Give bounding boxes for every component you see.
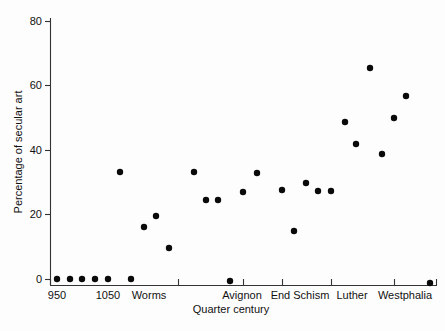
data-point [391, 115, 397, 121]
data-point [342, 119, 348, 125]
data-point [379, 151, 385, 157]
data-point [315, 188, 321, 194]
data-point [291, 228, 297, 234]
y-tick-marks [45, 22, 50, 280]
x-tick-label-worms: Worms [132, 289, 167, 301]
x-tick-label-avignon: Avignon [222, 289, 262, 301]
data-point [403, 93, 409, 99]
data-point [191, 169, 197, 175]
data-point [328, 188, 334, 194]
y-tick-label-60: 60 [30, 79, 42, 91]
data-point [117, 169, 123, 175]
data-point [367, 65, 373, 71]
data-point [141, 224, 147, 230]
data-point [279, 187, 285, 193]
x-tick-label-1050: 1050 [96, 289, 120, 301]
x-tick-label-westphalia: Westphalia [378, 289, 433, 301]
x-tick-label-end-schism: End Schism [271, 289, 330, 301]
data-point [166, 245, 172, 251]
data-point [105, 276, 111, 282]
x-tick-label-950: 950 [48, 289, 66, 301]
data-point [353, 141, 359, 147]
data-point [79, 276, 85, 282]
y-tick-label-40: 40 [30, 144, 42, 156]
data-point [54, 276, 60, 282]
y-axis-title: Percentage of secular art [12, 91, 24, 214]
scatter-plot-figure: 80 60 40 20 0 950 1050 Worms Avignon End… [0, 0, 445, 331]
data-point [153, 213, 159, 219]
data-point [427, 280, 433, 286]
data-point [303, 180, 309, 186]
data-points-layer [54, 65, 433, 286]
x-tick-label-luther: Luther [336, 289, 368, 301]
data-point [128, 276, 134, 282]
x-axis-title: Quarter century [193, 303, 270, 315]
data-point [227, 278, 233, 284]
data-point [240, 189, 246, 195]
y-tick-label-20: 20 [30, 208, 42, 220]
data-point [215, 197, 221, 203]
y-tick-label-80: 80 [30, 15, 42, 27]
y-tick-label-0: 0 [36, 273, 42, 285]
data-point [67, 276, 73, 282]
data-point [92, 276, 98, 282]
plot-canvas: 80 60 40 20 0 950 1050 Worms Avignon End… [0, 0, 445, 331]
data-point [254, 170, 260, 176]
data-point [203, 197, 209, 203]
